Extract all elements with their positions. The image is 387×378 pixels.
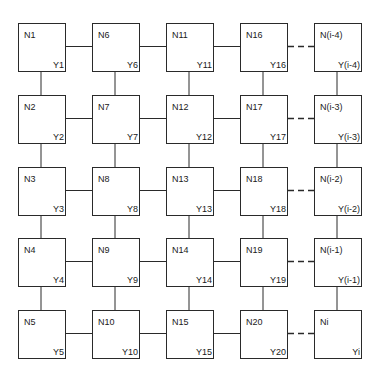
node-box: N14Y14	[166, 238, 214, 287]
node-output-label: Y5	[53, 347, 64, 357]
node-box: N5Y5	[18, 310, 66, 359]
node-output-label: Y3	[53, 204, 64, 214]
node-output-label: Y1	[53, 60, 64, 70]
node-box: N(i-1)Y(i-1)	[314, 238, 362, 287]
node-box: N3Y3	[18, 167, 66, 216]
node-box: N16Y16	[240, 23, 288, 72]
node-box: N10Y10	[92, 310, 140, 359]
node-box: N12Y12	[166, 95, 214, 144]
node-box: N4Y4	[18, 238, 66, 287]
node-box: N20Y20	[240, 310, 288, 359]
node-output-label: Y15	[196, 347, 212, 357]
node-label: N5	[24, 317, 36, 327]
node-box: N18Y18	[240, 167, 288, 216]
node-box: N(i-3)Y(i-3)	[314, 95, 362, 144]
node-label: N10	[98, 317, 115, 327]
node-box: N9Y9	[92, 238, 140, 287]
node-label: N4	[24, 245, 36, 255]
node-box: N(i-4)Y(i-4)	[314, 23, 362, 72]
node-label: N(i-4)	[320, 30, 343, 40]
node-label: N3	[24, 174, 36, 184]
node-output-label: Y6	[127, 60, 138, 70]
node-box: N2Y2	[18, 95, 66, 144]
node-label: N20	[246, 317, 263, 327]
node-label: N7	[98, 102, 110, 112]
node-output-label: Y16	[270, 60, 286, 70]
mesh-network-diagram: N1Y1N2Y2N3Y3N4Y4N5Y5N6Y6N7Y7N8Y8N9Y9N10Y…	[0, 0, 387, 378]
node-label: N16	[246, 30, 263, 40]
node-output-label: Y(i-1)	[338, 275, 360, 285]
node-box: N1Y1	[18, 23, 66, 72]
node-box: N11Y11	[166, 23, 214, 72]
node-box: N6Y6	[92, 23, 140, 72]
node-output-label: Y(i-3)	[338, 132, 360, 142]
node-box: N13Y13	[166, 167, 214, 216]
node-label: N18	[246, 174, 263, 184]
node-output-label: Y7	[127, 132, 138, 142]
node-label: N9	[98, 245, 110, 255]
node-output-label: Yi	[352, 347, 360, 357]
node-output-label: Y20	[270, 347, 286, 357]
node-output-label: Y17	[270, 132, 286, 142]
node-output-label: Y19	[270, 275, 286, 285]
node-label: N17	[246, 102, 263, 112]
node-output-label: Y12	[196, 132, 212, 142]
node-label: N2	[24, 102, 36, 112]
node-label: N6	[98, 30, 110, 40]
node-output-label: Y(i-4)	[338, 60, 360, 70]
node-label: N1	[24, 30, 36, 40]
node-label: N11	[172, 30, 188, 40]
node-label: N19	[246, 245, 263, 255]
node-output-label: Y9	[127, 275, 138, 285]
node-output-label: Y11	[197, 60, 212, 70]
node-label: N8	[98, 174, 110, 184]
node-box: N19Y19	[240, 238, 288, 287]
node-label: N14	[172, 245, 189, 255]
node-output-label: Y8	[127, 204, 138, 214]
node-box: N7Y7	[92, 95, 140, 144]
node-box: NiYi	[314, 310, 362, 359]
node-box: N8Y8	[92, 167, 140, 216]
node-box: N(i-2)Y(i-2)	[314, 167, 362, 216]
node-box: N15Y15	[166, 310, 214, 359]
node-output-label: Y(i-2)	[338, 204, 360, 214]
node-label: N13	[172, 174, 189, 184]
node-output-label: Y13	[196, 204, 212, 214]
node-label: N(i-2)	[320, 174, 343, 184]
node-output-label: Y4	[53, 275, 64, 285]
node-label: N12	[172, 102, 189, 112]
node-output-label: Y2	[53, 132, 64, 142]
node-output-label: Y10	[122, 347, 138, 357]
node-label: Ni	[320, 317, 329, 327]
node-output-label: Y18	[270, 204, 286, 214]
node-box: N17Y17	[240, 95, 288, 144]
node-label: N15	[172, 317, 189, 327]
node-label: N(i-3)	[320, 102, 343, 112]
node-label: N(i-1)	[320, 245, 343, 255]
node-output-label: Y14	[196, 275, 212, 285]
